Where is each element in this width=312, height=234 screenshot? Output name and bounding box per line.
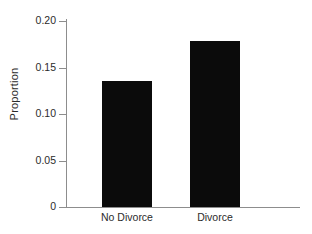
y-axis-tick-label: 0.05: [16, 154, 56, 166]
bar-chart: Proportion 00.050.100.150.20 No DivorceD…: [0, 0, 312, 234]
y-axis-tick-label: 0.10: [16, 107, 56, 119]
bar: [190, 41, 240, 207]
y-axis-tick: [59, 114, 66, 115]
y-axis-tick-label: 0: [16, 200, 56, 212]
y-axis-tick: [59, 68, 66, 69]
y-axis-tick-label: 0.20: [16, 14, 56, 26]
y-axis-line: [66, 19, 67, 208]
x-axis-category-label: No Divorce: [82, 211, 172, 223]
x-axis-line: [66, 207, 300, 208]
y-axis-tick: [59, 21, 66, 22]
bar: [102, 81, 152, 207]
y-axis-tick-label: 0.15: [16, 61, 56, 73]
y-axis-tick: [59, 161, 66, 162]
x-axis-category-label: Divorce: [170, 211, 260, 223]
y-axis-tick: [59, 207, 66, 208]
